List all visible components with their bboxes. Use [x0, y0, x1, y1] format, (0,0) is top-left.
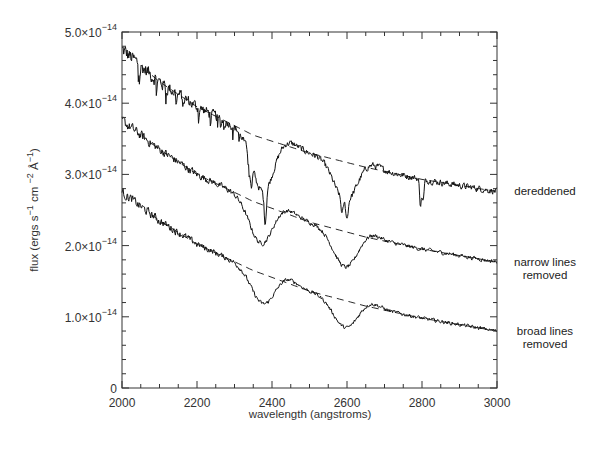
spectrum-line-broad-lines-removed: [122, 188, 497, 332]
continuum-line: [152, 215, 497, 331]
y-tick-label: 4.0×10−14: [65, 93, 117, 111]
x-tick-label: 2200: [184, 396, 211, 410]
spectra-lines: [122, 47, 497, 332]
spectrum-chart: 200022002400260028003000 01.0×10−142.0×1…: [0, 0, 596, 454]
y-tick-label: 3.0×10−14: [65, 164, 117, 182]
x-tick-label: 3000: [484, 396, 511, 410]
y-tick-label: 1.0×10−14: [65, 307, 117, 325]
spectrum-line-dereddened: [122, 47, 497, 225]
continuum-dashed-lines: [152, 75, 497, 331]
y-axis-ticks: 01.0×10−142.0×10−143.0×10−144.0×10−145.0…: [65, 22, 497, 396]
plot-frame: [122, 32, 497, 388]
y-axis-title: flux (ergs s−1 cm −2 Å−1): [25, 148, 40, 272]
y-tick-label: 2.0×10−14: [65, 236, 117, 254]
series-label: dereddened: [514, 185, 575, 197]
spectrum-line-narrow-lines-removed: [122, 117, 497, 269]
y-tick-label: 5.0×10−14: [65, 22, 117, 40]
x-tick-label: 2000: [109, 396, 136, 410]
series-labels: dereddenednarrow linesremovedbroad lines…: [514, 185, 576, 350]
y-tick-label: 0: [110, 382, 117, 396]
continuum-line: [152, 75, 497, 191]
series-label: broad linesremoved: [517, 325, 574, 350]
x-axis-title: wavelength (angstroms): [248, 408, 372, 420]
series-label: narrow linesremoved: [514, 256, 576, 281]
x-tick-label: 2800: [409, 396, 436, 410]
